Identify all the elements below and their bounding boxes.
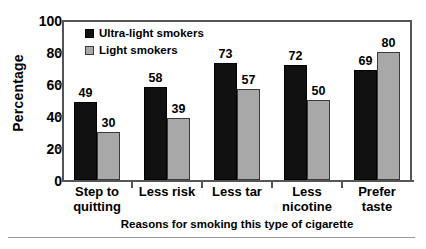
footer-divider — [8, 237, 415, 238]
bar — [97, 132, 120, 180]
bar-value-label: 30 — [91, 117, 126, 130]
bar-value-label: 72 — [278, 50, 313, 63]
y-tick-label-0: 0 — [28, 174, 62, 188]
legend-swatch-icon-light — [85, 46, 94, 55]
x-axis-category-label: Less risk — [132, 184, 202, 199]
legend-swatch-icon-ultra-light — [85, 29, 94, 38]
y-tick-label-100: 100 — [28, 14, 62, 28]
x-axis-category-label-line: Step to — [62, 184, 132, 199]
bar — [377, 52, 400, 180]
bar-value-label: 69 — [348, 55, 383, 68]
x-axis-category-label-line: Less tar — [202, 184, 272, 199]
x-axis-category-label-line: Less risk — [132, 184, 202, 199]
bar-value-label: 49 — [68, 87, 103, 100]
bar — [284, 65, 307, 180]
bar-value-label: 58 — [138, 72, 173, 85]
x-axis-category-label-line: Prefer — [342, 184, 412, 199]
bar — [74, 102, 97, 180]
x-axis-title: Reasons for smoking this type of cigaret… — [62, 218, 412, 230]
legend-label-light: Light smokers — [99, 44, 178, 56]
bar — [144, 87, 167, 180]
bar — [307, 100, 330, 180]
y-tick-label-40: 40 — [28, 110, 62, 124]
x-axis-category-label: Lessnicotine — [272, 184, 342, 214]
x-axis-category-label-line: Less — [272, 184, 342, 199]
legend: Ultra-light smokers Light smokers — [85, 26, 204, 60]
x-axis-category-label-line: nicotine — [272, 199, 342, 214]
x-axis-category-label: Prefertaste — [342, 184, 412, 214]
bar-value-label: 50 — [301, 85, 336, 98]
legend-item-ultra-light: Ultra-light smokers — [85, 26, 204, 40]
x-axis-category-label-line: quitting — [62, 199, 132, 214]
bar-value-label: 73 — [208, 48, 243, 61]
legend-label-ultra-light: Ultra-light smokers — [99, 27, 204, 39]
bar — [237, 89, 260, 180]
legend-item-light: Light smokers — [85, 43, 204, 57]
x-axis-category-label: Less tar — [202, 184, 272, 199]
y-tick-label-20: 20 — [28, 142, 62, 156]
y-tick-label-80: 80 — [28, 46, 62, 60]
y-tick-label-60: 60 — [28, 78, 62, 92]
x-axis-category-label-line: taste — [342, 199, 412, 214]
bar — [167, 118, 190, 180]
x-axis-category-label: Step toquitting — [62, 184, 132, 214]
y-axis-ticks: 100 80 60 40 20 0 — [0, 0, 62, 249]
bar-chart-figure: Percentage 100 80 60 40 20 0 Ultra-light… — [0, 0, 426, 249]
bar-value-label: 80 — [371, 37, 406, 50]
bar — [354, 70, 377, 180]
bar-value-label: 57 — [231, 74, 266, 87]
bar-value-label: 39 — [161, 103, 196, 116]
x-axis-line — [62, 180, 414, 182]
